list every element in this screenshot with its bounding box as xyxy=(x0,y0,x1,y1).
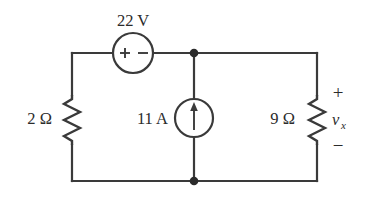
circuit-schematic-canvas: 22 V 11 A 2 Ω 9 Ω + v x − xyxy=(0,0,375,199)
node-dot-top xyxy=(190,49,199,58)
vx-minus-sign: − xyxy=(333,135,344,156)
current-source-label: 11 A xyxy=(137,109,168,128)
resistor-right-label: 9 Ω xyxy=(270,109,295,128)
voltage-source-label: 22 V xyxy=(117,11,149,30)
resistor-left-label: 2 Ω xyxy=(27,109,52,128)
vx-plus-sign: + xyxy=(333,82,344,103)
vx-subscript: x xyxy=(340,119,346,131)
resistor-left-zigzag xyxy=(64,95,80,145)
vx-label: v xyxy=(332,110,340,129)
resistor-right-zigzag xyxy=(309,95,325,145)
circuit-diagram: 22 V 11 A 2 Ω 9 Ω + v x − xyxy=(0,0,375,199)
node-dot-bottom xyxy=(190,177,199,186)
